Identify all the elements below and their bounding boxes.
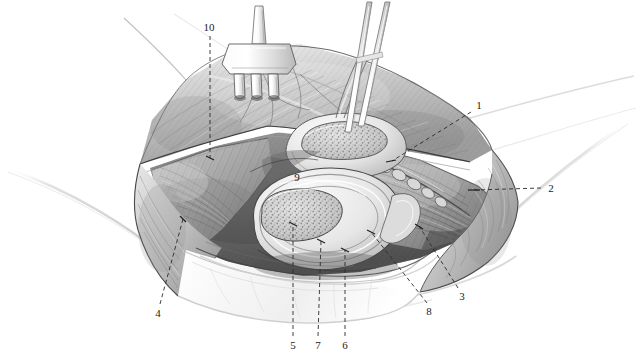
callout-label-8: 8 — [426, 306, 432, 317]
callout-label-9: 9 — [294, 172, 300, 183]
callout-label-7: 7 — [315, 340, 321, 351]
callout-label-4: 4 — [155, 308, 161, 319]
anatomical-figure: 1 2 3 4 5 6 7 8 9 10 — [0, 0, 636, 360]
callout-label-5: 5 — [290, 340, 296, 351]
callout-label-1: 1 — [476, 100, 482, 111]
callout-label-6: 6 — [342, 340, 348, 351]
callout-label-2: 2 — [548, 183, 554, 194]
illustration-artwork — [0, 0, 636, 360]
callout-label-10: 10 — [204, 22, 215, 33]
callout-label-3: 3 — [459, 291, 465, 302]
